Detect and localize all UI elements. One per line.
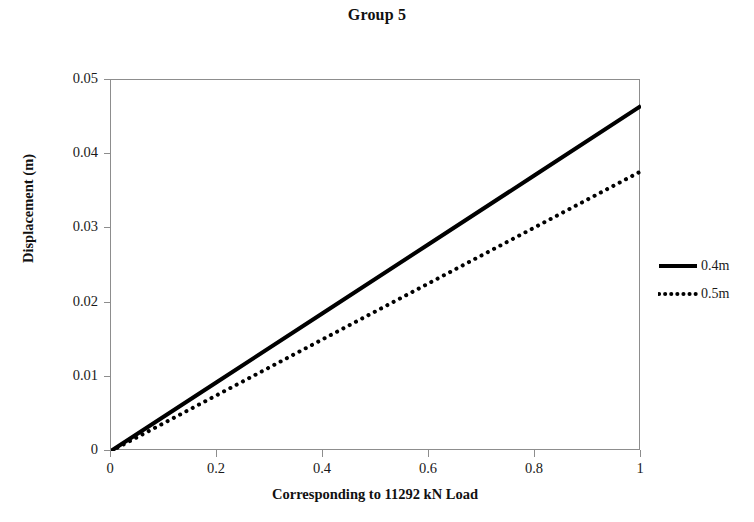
y-axis-tick-label-text: 0.02 xyxy=(40,293,98,310)
x-axis-tick-label-text: 0.4 xyxy=(313,460,331,476)
x-axis-tick-mark xyxy=(428,450,429,457)
y-axis-tick-label-text: 0 xyxy=(40,441,98,458)
x-axis-tick-mark xyxy=(110,450,111,457)
legend-item[interactable]: 0.4m xyxy=(658,252,752,280)
y-axis-tick-label: 0.02 xyxy=(34,293,98,309)
y-axis-tick-label-text: 0.01 xyxy=(40,367,98,384)
chart-legend: 0.4m0.5m xyxy=(658,252,752,308)
legend-item[interactable]: 0.5m xyxy=(658,280,752,308)
legend-label: 0.4m xyxy=(701,258,729,274)
x-axis-tick-label: 1 xyxy=(610,459,670,477)
x-axis-tick-label: 0.4 xyxy=(292,459,352,477)
x-axis-tick-label: 0.2 xyxy=(186,459,246,477)
x-axis-title: Corresponding to 11292 kN Load xyxy=(110,486,640,503)
series-line-0.5m xyxy=(111,171,641,451)
series-line-0.4m xyxy=(111,106,641,451)
x-axis-tick-mark xyxy=(322,450,323,457)
x-axis-tick-mark xyxy=(640,450,641,457)
y-axis-tick-label: 0.05 xyxy=(34,70,98,86)
y-axis-tick-label: 0 xyxy=(34,441,98,457)
legend-swatch-0.4m xyxy=(658,260,698,272)
y-axis-tick-label: 0.01 xyxy=(34,367,98,383)
x-axis-tick-label-text: 0 xyxy=(106,460,113,476)
plot-area xyxy=(110,79,640,450)
legend-label: 0.5m xyxy=(701,286,729,302)
y-axis-tick-label-text: 0.03 xyxy=(40,218,98,235)
y-axis-tick-label: 0.03 xyxy=(34,218,98,234)
legend-swatch-0.5m xyxy=(658,288,698,300)
x-axis-tick-label: 0.8 xyxy=(504,459,564,477)
chart-figure: Group 5 Displacement (m) Corresponding t… xyxy=(0,0,754,522)
x-axis-tick-label-text: 0.8 xyxy=(525,460,543,476)
y-axis-tick-label: 0.04 xyxy=(34,144,98,160)
y-axis-tick-label-text: 0.04 xyxy=(40,144,98,161)
x-axis-tick-label-text: 1 xyxy=(636,460,643,476)
x-axis-tick-label: 0.6 xyxy=(398,459,458,477)
plot-series-svg xyxy=(111,80,641,451)
x-axis-tick-label: 0 xyxy=(80,459,140,477)
y-axis-tick-label-text: 0.05 xyxy=(40,70,98,87)
x-axis-tick-mark xyxy=(534,450,535,457)
x-axis-tick-label-text: 0.2 xyxy=(207,460,225,476)
x-axis-tick-label-text: 0.6 xyxy=(419,460,437,476)
x-axis-tick-mark xyxy=(216,450,217,457)
chart-title: Group 5 xyxy=(0,6,754,24)
